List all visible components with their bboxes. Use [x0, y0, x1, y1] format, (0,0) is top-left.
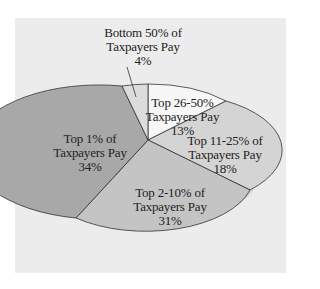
label-top-1: Top 1% of Taxpayers Pay 34% [40, 132, 140, 174]
label-top-2-10: Top 2-10% of Taxpayers Pay 31% [115, 186, 225, 228]
label-top-26-50: Top 26-50% Taxpayers Pay 13% [145, 96, 220, 138]
label-bottom-50: Bottom 50% of Taxpayers Pay 4% [88, 26, 198, 68]
label-top-11-25: Top 11-25% of Taxpayers Pay 18% [170, 134, 280, 176]
